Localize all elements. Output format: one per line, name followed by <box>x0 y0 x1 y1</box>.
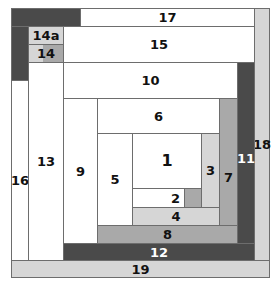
block-label: 16 <box>11 174 29 187</box>
block-4: 4 <box>132 207 220 226</box>
block-16: 16 <box>11 80 29 261</box>
block-label: 4 <box>171 210 180 223</box>
block-label: 3 <box>206 164 215 177</box>
block-12: 12 <box>63 243 255 261</box>
block-7: 7 <box>219 98 238 226</box>
block-label: 11 <box>237 152 255 165</box>
block-13: 13 <box>28 62 64 261</box>
block-9: 9 <box>63 98 98 244</box>
block-label: 2 <box>171 192 180 205</box>
quilt-block-diagram: 17 18 14a 14 15 10 16 13 9 6 5 1 <box>0 0 277 287</box>
block-label: 14a <box>33 29 60 42</box>
block-2-gray-segment <box>184 188 202 208</box>
block-label: 14 <box>37 47 55 60</box>
block-label: 10 <box>141 74 159 87</box>
block-17: 17 <box>80 8 255 27</box>
block-17-dark-segment <box>11 8 81 27</box>
block-label: 6 <box>154 110 163 123</box>
block-label: 18 <box>253 138 271 151</box>
block-5: 5 <box>97 133 133 226</box>
block-label: 1 <box>161 153 172 169</box>
block-label: 15 <box>150 38 168 51</box>
block-label: 8 <box>163 228 172 241</box>
block-18: 18 <box>254 8 270 261</box>
block-15: 15 <box>63 26 255 63</box>
block-10: 10 <box>63 62 238 99</box>
block-label: 13 <box>37 155 55 168</box>
block-14a: 14a <box>28 26 64 45</box>
block-14: 14 <box>28 44 64 63</box>
block-label: 19 <box>131 263 149 276</box>
block-6: 6 <box>97 98 220 134</box>
block-left-dark-segment <box>11 26 29 81</box>
block-8: 8 <box>97 225 238 244</box>
block-label: 17 <box>158 11 176 24</box>
block-label: 9 <box>76 165 85 178</box>
block-2: 2 <box>132 188 185 208</box>
block-label: 5 <box>110 173 119 186</box>
block-1: 1 <box>132 133 202 189</box>
block-label: 12 <box>150 246 168 259</box>
block-19: 19 <box>11 260 270 278</box>
block-11: 11 <box>237 62 255 244</box>
block-3: 3 <box>201 133 220 208</box>
block-label: 7 <box>224 171 233 184</box>
